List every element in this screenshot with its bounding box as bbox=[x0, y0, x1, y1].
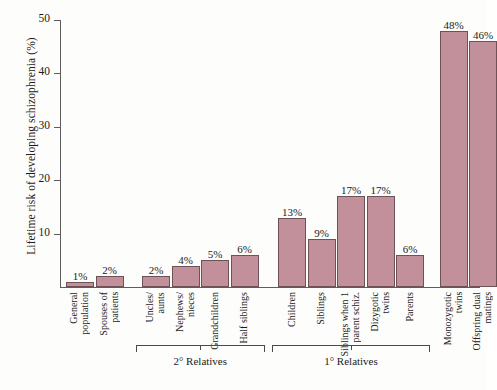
category-label-line: aunts bbox=[156, 292, 167, 323]
y-axis-tick-label: 30 bbox=[39, 119, 51, 131]
x-axis-category-label: Siblings bbox=[316, 292, 327, 325]
bar: 17% bbox=[337, 196, 365, 287]
bar: 17% bbox=[367, 196, 395, 287]
category-label-line: Spouses of bbox=[99, 292, 110, 336]
bar-value-label: 2% bbox=[102, 264, 117, 276]
bar-value-label: 48% bbox=[443, 19, 463, 31]
y-axis-tick-label: 40 bbox=[39, 65, 51, 77]
bar-value-label: 9% bbox=[314, 227, 329, 239]
bar: 1% bbox=[66, 282, 94, 287]
bracket-center-nub bbox=[200, 345, 201, 350]
bar: 4% bbox=[172, 266, 200, 287]
y-axis-tick: 20 bbox=[54, 180, 60, 181]
bar-value-label: 4% bbox=[178, 254, 193, 266]
x-axis-category-label: Spouses ofpatients bbox=[99, 292, 120, 336]
category-label-line: Dizygotic bbox=[370, 292, 381, 331]
category-label-line: twins bbox=[453, 292, 464, 345]
y-axis-title: Lifetime risk of developing schizophreni… bbox=[25, 21, 37, 271]
x-axis-category-label: Uncles/aunts bbox=[145, 292, 166, 323]
bar-value-label: 1% bbox=[73, 270, 88, 282]
bar: 13% bbox=[278, 218, 306, 287]
bar-value-label: 5% bbox=[208, 248, 223, 260]
group-bracket: 2° Relatives bbox=[136, 345, 265, 352]
y-axis-tick: 30 bbox=[54, 127, 60, 128]
y-axis-tick: 10 bbox=[54, 234, 60, 235]
y-axis-line bbox=[60, 20, 61, 288]
bar: 5% bbox=[201, 260, 229, 287]
category-label-line: Nephews/ bbox=[175, 292, 186, 332]
category-label-line: Children bbox=[287, 292, 298, 327]
group-bracket-label: 1° Relatives bbox=[273, 355, 429, 367]
x-axis-category-label: Grandchildren bbox=[210, 292, 221, 350]
category-label-line: Monozygotic bbox=[443, 292, 454, 345]
category-label-line: matings bbox=[483, 292, 494, 350]
bar-value-label: 6% bbox=[237, 243, 252, 255]
bar: 9% bbox=[308, 239, 336, 287]
bar: 48% bbox=[440, 31, 468, 287]
bar-value-label: 17% bbox=[370, 184, 390, 196]
y-axis-tick-label: 50 bbox=[39, 12, 51, 24]
bar-value-label: 17% bbox=[341, 184, 361, 196]
plot-area: 1020304050 1%2%2%4%5%6%13%9%17%17%6%48%4… bbox=[60, 20, 480, 288]
group-bracket-label: 2° Relatives bbox=[137, 355, 264, 367]
y-axis-tick-label: 20 bbox=[39, 172, 51, 184]
bar-value-label: 2% bbox=[149, 264, 164, 276]
x-axis-category-label: Nephews/nieces bbox=[175, 292, 196, 332]
bar: 46% bbox=[469, 41, 497, 287]
x-axis-category-label: Children bbox=[287, 292, 298, 327]
category-label-line: patients bbox=[109, 292, 120, 336]
group-bracket: 1° Relatives bbox=[272, 345, 430, 352]
x-axis-category-label: Half siblings bbox=[239, 292, 250, 343]
x-axis-category-label: Parents bbox=[405, 292, 416, 321]
bar-value-label: 46% bbox=[473, 29, 493, 41]
x-axis-category-label: Dizygotictwins bbox=[370, 292, 391, 331]
bar: 2% bbox=[96, 276, 124, 287]
bar: 6% bbox=[231, 255, 259, 287]
category-label-line: Half siblings bbox=[239, 292, 250, 343]
y-axis-tick: 40 bbox=[54, 73, 60, 74]
bar: 2% bbox=[142, 276, 170, 287]
bar-value-label: 13% bbox=[282, 206, 302, 218]
x-axis-category-label: Offspring dualmatings bbox=[472, 292, 493, 350]
category-label-line: Parents bbox=[405, 292, 416, 321]
x-axis-category-label: Generalpopulation bbox=[69, 292, 90, 335]
category-label-line: Siblings bbox=[316, 292, 327, 325]
y-axis-tick-label: 10 bbox=[39, 226, 51, 238]
category-label-line: nieces bbox=[185, 292, 196, 332]
x-axis-line bbox=[60, 287, 480, 288]
x-axis-category-label: Monozygotictwins bbox=[443, 292, 464, 345]
category-label-line: Grandchildren bbox=[210, 292, 221, 350]
bar: 6% bbox=[396, 255, 424, 287]
category-label-line: population bbox=[80, 292, 91, 335]
bracket-center-nub bbox=[351, 345, 352, 350]
category-label-line: twins bbox=[380, 292, 391, 331]
y-axis-tick: 50 bbox=[54, 20, 60, 21]
bar-value-label: 6% bbox=[403, 243, 418, 255]
